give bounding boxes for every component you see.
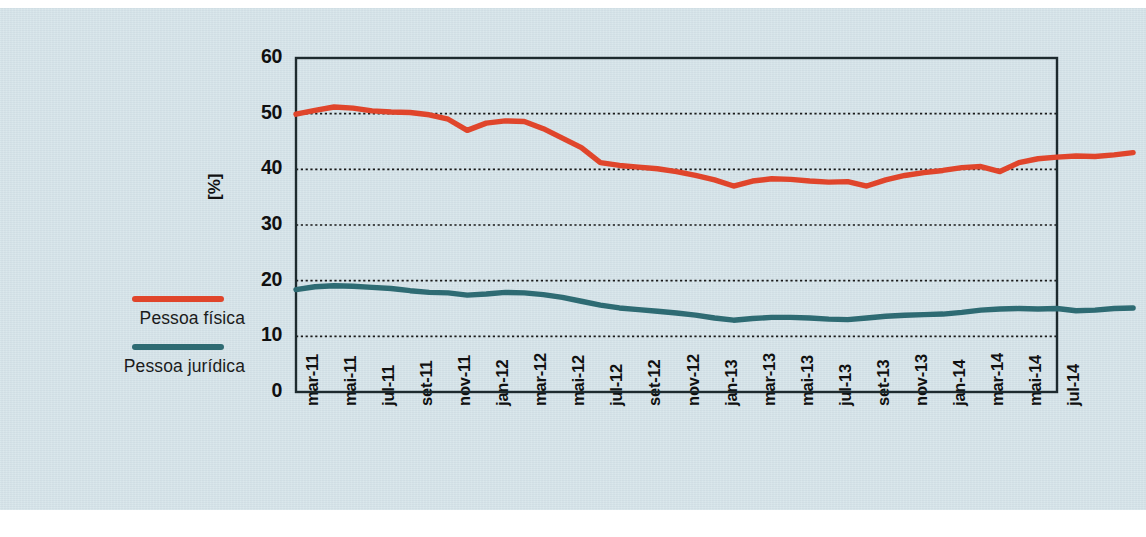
series-line-pessoa-fisica [296,107,1133,186]
plot-area [0,0,1146,537]
series-line-pessoa-juridica [296,286,1133,321]
line-chart-figure: Pessoa física Pessoa jurídica [%] 010203… [0,0,1146,537]
